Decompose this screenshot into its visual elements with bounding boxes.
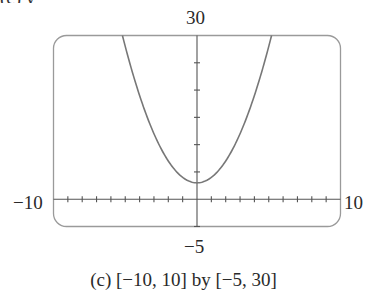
figure-caption: (c) [−10, 10] by [−5, 30] [0, 269, 367, 291]
y-min-label: −5 [184, 237, 204, 256]
x-max-label: 10 [344, 193, 363, 212]
y-max-label: 30 [186, 8, 205, 27]
axes [54, 36, 341, 227]
x-min-label: −10 [13, 193, 43, 212]
